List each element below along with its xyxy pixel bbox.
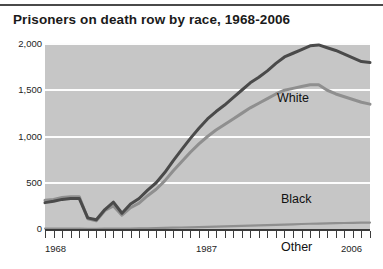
x-axis-tick [190,231,191,238]
x-axis-tick [327,231,328,238]
x-axis-tick [62,231,63,238]
x-axis-tick [165,231,166,238]
x-axis-tick [233,231,234,238]
x-axis-tick [199,231,200,238]
x-axis-tick [242,231,243,238]
series-line-white [45,45,370,220]
x-axis-tick [54,231,55,238]
y-axis-tick-label: 500 [0,177,42,188]
x-axis-tick [353,231,354,238]
series-layer [45,44,370,229]
y-axis-tick-label: 1,500 [0,84,42,95]
x-axis-label-end: 2006 [341,243,362,254]
x-axis-label-mid: 1987 [196,243,217,254]
x-axis-tick [276,231,277,238]
x-axis-ticks [45,231,370,239]
x-axis-tick [225,231,226,238]
x-axis-tick [71,231,72,238]
y-axis-tick-label: 0 [0,223,42,234]
x-axis-tick [310,231,311,238]
x-axis-tick [122,231,123,238]
series-label-white: White [277,91,309,105]
x-axis-tick [302,231,303,238]
x-axis-tick [105,231,106,238]
series-line-other [45,223,370,229]
x-axis-tick [208,231,209,238]
x-axis-tick [293,231,294,238]
header-divider [0,4,383,6]
x-axis-tick [370,231,371,238]
series-label-black: Black [281,192,312,206]
x-axis-tick [148,231,149,238]
x-axis-tick [259,231,260,238]
x-axis-tick [131,231,132,238]
x-axis-tick [250,231,251,238]
x-axis-tick [284,231,285,238]
series-line-black [45,85,370,221]
x-axis-tick [96,231,97,238]
x-axis-tick [139,231,140,238]
x-axis-tick [267,231,268,238]
x-axis-tick [113,231,114,238]
y-axis-labels: 05001,0001,5002,000 [0,44,42,229]
x-axis-tick [173,231,174,238]
x-axis-tick [216,231,217,238]
series-label-other: Other [281,240,312,254]
x-axis-tick [319,231,320,238]
x-axis-tick [79,231,80,238]
x-axis-tick [361,231,362,238]
y-axis-tick-label: 1,000 [0,131,42,142]
plot-area: White Black Other [45,44,370,229]
x-axis-tick [88,231,89,238]
page-title: Prisoners on death row by race, 1968-200… [13,12,290,27]
x-axis-tick [156,231,157,238]
chart-figure: Prisoners on death row by race, 1968-200… [0,0,383,269]
x-axis-label-start: 1968 [45,243,66,254]
x-axis-tick [182,231,183,238]
y-axis-tick-label: 2,000 [0,38,42,49]
x-axis-tick [336,231,337,238]
x-axis-tick [344,231,345,238]
x-axis-tick [45,231,46,238]
